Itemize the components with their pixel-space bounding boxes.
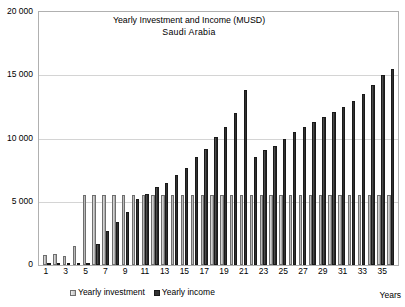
bar-group [239,12,249,265]
x-axis: 1357911131517192123252729313335 [38,267,399,281]
bar-group [209,12,219,265]
bar-yearly-income [116,222,119,265]
bar-group [42,12,52,265]
legend-swatch-income-icon [154,290,160,296]
x-axis-tick-label: 15 [180,267,189,276]
bar-group [337,12,347,265]
bar-yearly-income [126,212,129,265]
bar-group [199,12,209,265]
x-axis-tick-label: 13 [160,267,169,276]
bar-group [268,12,278,265]
legend-item: Yearly investment [70,288,145,297]
x-axis-tick-label: 25 [279,267,288,276]
bar-group [278,12,288,265]
bar-yearly-income [293,132,296,265]
bar-group [307,12,317,265]
y-axis-tick-label: 15 000 [7,70,33,79]
bar-yearly-income [175,175,178,265]
bar-yearly-income [371,85,374,265]
bar-yearly-income [244,90,247,265]
x-axis-tick-label: 33 [358,267,367,276]
bar-group [327,12,337,265]
bar-group [386,12,396,265]
bar-yearly-income [195,157,198,265]
x-axis-tick-label: 17 [199,267,208,276]
bar-group [189,12,199,265]
bar-series-container [39,12,398,265]
chart-legend: Yearly investmentYearly income [70,288,221,297]
bar-group [62,12,72,265]
bar-group [111,12,121,265]
bar-yearly-income [106,231,109,265]
plot-area [38,11,399,266]
x-axis-tick-label: 35 [377,267,386,276]
x-axis-tick-label: 11 [140,267,149,276]
bar-group [81,12,91,265]
y-axis-tick-label: 10 000 [7,134,33,143]
y-axis: 05 00010 00015 00020 000 [0,0,38,275]
x-axis-tick-label: 7 [103,267,108,276]
bar-yearly-income [234,113,237,265]
bar-group [170,12,180,265]
bar-yearly-income [67,263,70,265]
bar-yearly-income [47,263,50,265]
bar-group [121,12,131,265]
x-axis-tick-label: 9 [123,267,128,276]
x-axis-tick-label: 31 [338,267,347,276]
bar-yearly-income [214,137,217,265]
y-axis-tick-label: 0 [28,260,33,269]
bar-group [229,12,239,265]
bar-yearly-income [391,69,394,265]
x-axis-tick-label: 29 [318,267,327,276]
bar-yearly-income [381,75,384,265]
bar-group [317,12,327,265]
bar-yearly-income [254,157,257,265]
bar-yearly-income [96,244,99,266]
bar-yearly-income [165,183,168,265]
bar-yearly-income [263,150,266,265]
bar-group [160,12,170,265]
bar-group [258,12,268,265]
bar-group [180,12,190,265]
bar-yearly-income [283,139,286,266]
bar-group [248,12,258,265]
bar-group [298,12,308,265]
bar-yearly-income [77,263,80,265]
x-axis-tick-label: 3 [63,267,68,276]
legend-swatch-investment-icon [70,290,76,296]
y-axis-tick-label: 20 000 [7,7,33,16]
x-axis-tick-label: 5 [83,267,88,276]
bar-yearly-income [136,199,139,265]
x-axis-tick-label: 21 [239,267,248,276]
bar-yearly-income [155,187,158,265]
bar-group [130,12,140,265]
x-axis-tick-label: 27 [298,267,307,276]
bar-yearly-income [342,107,345,265]
x-axis-tick-label: 23 [259,267,268,276]
bar-yearly-income [352,101,355,265]
x-axis-tick-label: 19 [219,267,228,276]
bar-group [91,12,101,265]
legend-label: Yearly investment [78,288,145,297]
bar-group [357,12,367,265]
bar-yearly-income [185,168,188,265]
bar-group [71,12,81,265]
bar-yearly-income [145,194,148,265]
bar-group [101,12,111,265]
bar-group [52,12,62,265]
bar-yearly-income [273,146,276,265]
legend-label: Yearly income [162,288,215,297]
bar-group [347,12,357,265]
bar-yearly-income [57,263,60,265]
bar-yearly-income [362,94,365,265]
bar-yearly-income [204,149,207,265]
bar-group [376,12,386,265]
bar-yearly-investment [83,195,86,265]
bar-group [150,12,160,265]
bar-yearly-income [322,117,325,265]
bar-yearly-income [86,263,89,265]
bar-yearly-income [224,127,227,265]
bar-yearly-income [303,127,306,265]
x-axis-title: Years [380,291,401,300]
bar-group [366,12,376,265]
